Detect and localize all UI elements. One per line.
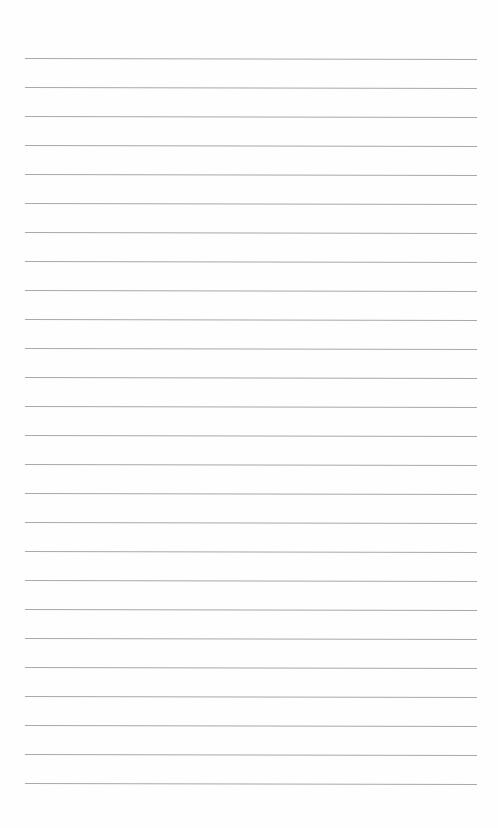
ruled-line [25,638,477,640]
ruled-line [25,551,477,553]
ruled-page [0,0,498,828]
ruled-line [25,87,477,89]
ruled-line [25,754,477,756]
ruled-line [25,493,477,495]
ruled-line [25,435,477,437]
ruled-line [25,783,477,785]
ruled-line [25,145,477,147]
ruled-line [25,464,477,466]
ruled-line [25,609,477,611]
ruled-line [25,406,477,408]
ruled-line [25,232,477,234]
ruled-line [25,261,477,263]
ruled-line [25,203,477,205]
ruled-line [25,580,477,582]
ruled-line [25,319,477,321]
ruled-line [25,348,477,350]
ruled-line [25,290,477,292]
ruled-line [25,377,477,379]
ruled-line [25,58,477,60]
ruled-line [25,522,477,524]
ruled-line [25,116,477,118]
ruled-line [25,174,477,176]
ruled-line [25,696,477,698]
ruled-line [25,667,477,669]
ruled-line [25,725,477,727]
